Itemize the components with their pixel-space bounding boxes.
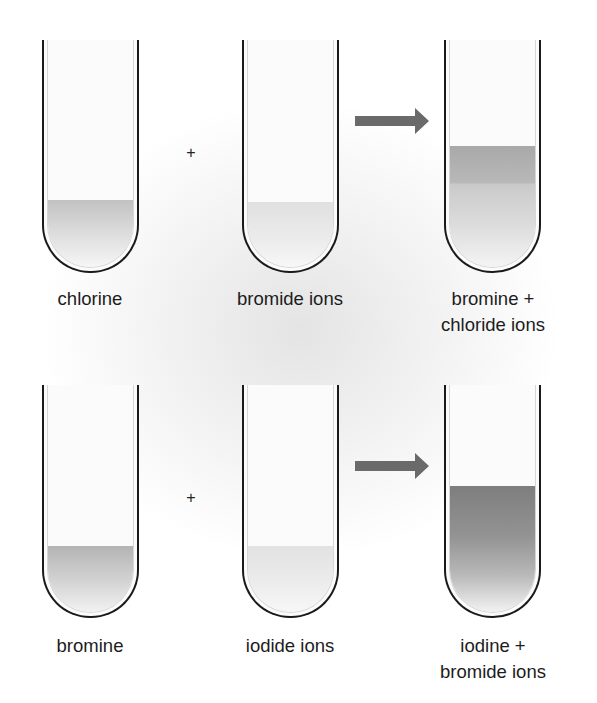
tube-inner-rim (47, 40, 134, 268)
tube-inner-rim (247, 40, 334, 268)
tube-inner-rim (47, 385, 134, 613)
arrow-right-icon (355, 108, 429, 134)
tube-inner-rim (449, 40, 536, 268)
label-product-line1: iodine + (403, 633, 583, 659)
label-chlorine: chlorine (0, 286, 180, 312)
label-product-line2: chloride ions (403, 312, 583, 338)
test-tube-iodine-bromide-ions (444, 385, 541, 618)
test-tube-iodide-ions (242, 385, 339, 618)
tube-inner-rim (449, 385, 536, 613)
test-tube-bromine (42, 385, 139, 618)
test-tube-chlorine (42, 40, 139, 273)
liquid-iodine-bromide (450, 486, 535, 612)
label-bromide-ions: bromide ions (200, 286, 380, 312)
label-iodide-ions: iodide ions (200, 633, 380, 659)
label-bromine: bromine (0, 633, 180, 659)
test-tube-bromine-chloride-ions (444, 40, 541, 273)
arrow-right-icon (355, 453, 429, 479)
label-product-line2: bromide ions (403, 659, 583, 685)
liquid-bromine (48, 546, 133, 612)
plus-sign: + (181, 489, 201, 507)
label-product-line1: bromine + (403, 286, 583, 312)
test-tube-bromide-ions (242, 40, 339, 273)
liquid-bromide-ions (248, 202, 333, 267)
plus-sign: + (181, 144, 201, 162)
liquid-bromine-chloride (450, 146, 535, 267)
tube-inner-rim (247, 385, 334, 613)
liquid-chlorine (48, 200, 133, 267)
liquid-iodide-ions (248, 546, 333, 612)
